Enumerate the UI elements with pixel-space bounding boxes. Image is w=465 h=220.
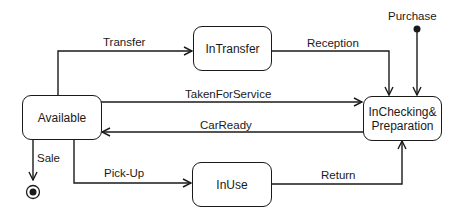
initial-label-purchase: Purchase	[388, 10, 437, 22]
state-available[interactable]: Available	[22, 95, 102, 140]
state-in-checking-label-line1: InChecking&	[368, 105, 436, 119]
transfer-edge	[58, 51, 192, 95]
transition-label-pick-up: Pick-Up	[104, 167, 144, 179]
transition-label-return: Return	[321, 169, 356, 181]
state-in-use-label: InUse	[216, 178, 247, 192]
transition-label-reception: Reception	[307, 37, 359, 49]
final-state-inner	[30, 189, 37, 196]
transition-label-taken-for-service: TakenForService	[185, 88, 271, 100]
state-in-use[interactable]: InUse	[192, 162, 272, 207]
state-in-checking-label-line2: Preparation	[371, 119, 433, 133]
transition-label-car-ready: CarReady	[200, 119, 252, 131]
state-available-label: Available	[38, 111, 86, 125]
transition-label-transfer: Transfer	[103, 36, 145, 48]
transition-label-sale: Sale	[37, 152, 60, 164]
initial-state-dot	[414, 26, 421, 33]
state-in-transfer-label: InTransfer	[205, 42, 259, 56]
state-in-transfer[interactable]: InTransfer	[193, 26, 272, 71]
state-in-checking-preparation[interactable]: InChecking& Preparation	[363, 96, 442, 141]
reception-edge	[271, 51, 389, 95]
